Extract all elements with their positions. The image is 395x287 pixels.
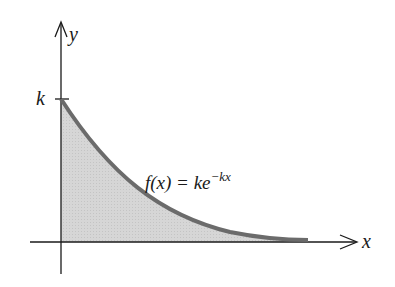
k-tick-label: k xyxy=(36,88,45,108)
function-label-exponent: −kx xyxy=(211,169,231,184)
x-axis-label: x xyxy=(362,231,371,251)
shaded-area xyxy=(61,99,308,242)
function-label-base: f(x) = ke xyxy=(145,172,211,193)
function-label: f(x) = ke−kx xyxy=(145,173,231,192)
y-axis-label: y xyxy=(69,24,78,44)
exponential-decay-diagram: y x k f(x) = ke−kx xyxy=(0,0,395,287)
